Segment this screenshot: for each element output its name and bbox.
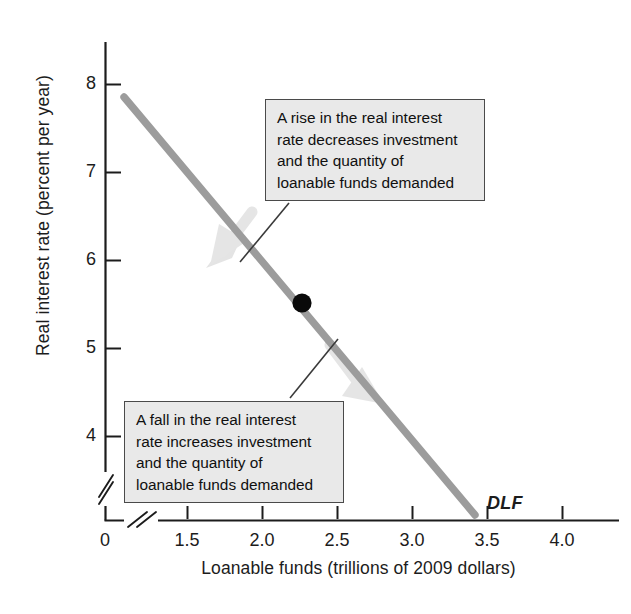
y-axis-title: Real interest rate (percent per year) [33,51,54,381]
y-axis-ticks [106,85,121,437]
loanable-funds-demand-figure: 8 7 6 5 4 0 1.5 2.0 2.5 3.0 3.5 4.0 Real… [0,0,631,614]
x-tick-label-0: 0 [75,530,135,551]
y-tick-label-7: 7 [62,161,96,182]
x-tick-label-2-0: 2.0 [232,530,292,551]
rise-callout-line-1: A rise in the real interest [277,107,475,129]
rise-callout-line-3: and the quantity of [277,150,475,172]
fall-callout-line-2: rate increases investment [136,431,334,453]
x-tick-label-4-0: 4.0 [532,530,592,551]
x-tick-label-2-5: 2.5 [307,530,367,551]
x-axis-break-mark [124,512,158,527]
dlf-curve-label: DLF [487,493,523,514]
x-axis-title: Loanable funds (trillions of 2009 dollar… [0,558,631,579]
y-tick-label-6: 6 [62,249,96,270]
fall-callout-line-1: A fall in the real interest [136,409,334,431]
y-tick-label-8: 8 [62,73,96,94]
rise-callout-box: A rise in the real interest rate decreas… [265,99,485,201]
x-tick-label-3-5: 3.5 [457,530,517,551]
y-axis-break-mark [99,472,113,506]
fall-callout-line-4: loanable funds demanded [136,474,334,496]
fall-callout-box: A fall in the real interest rate increas… [124,401,344,503]
equilibrium-point-marker [292,293,311,312]
y-tick-label-4: 4 [62,425,96,446]
x-tick-label-1-5: 1.5 [157,530,217,551]
fall-callout-leader-line [290,339,338,398]
x-tick-label-3-0: 3.0 [382,530,442,551]
fall-callout-line-3: and the quantity of [136,452,334,474]
rise-callout-line-4: loanable funds demanded [277,172,475,194]
y-tick-label-5: 5 [62,337,96,358]
rise-callout-line-2: rate decreases investment [277,129,475,151]
